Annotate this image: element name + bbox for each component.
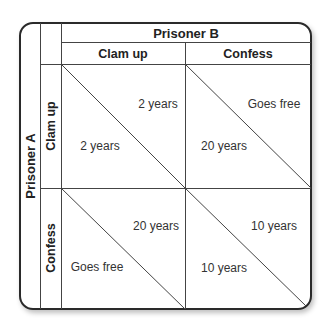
payoff-b-clamup-confess: Goes free [248,97,301,111]
row-player-title: Prisoner A [23,133,38,198]
row-header-confess: Confess [44,223,58,272]
row-header-clam-up: Clam up [44,101,58,150]
payoff-a-clamup-confess: 20 years [201,139,247,153]
payoff-a-clamup-clamup: 2 years [80,139,119,153]
payoff-a-confess-confess: 10 years [201,261,247,275]
column-player-title: Prisoner B [153,26,219,41]
column-header-clam-up: Clam up [98,47,147,61]
payoff-b-confess-confess: 10 years [251,219,297,233]
column-header-confess: Confess [223,47,272,61]
payoff-b-confess-clamup: 20 years [133,219,179,233]
cell-diagonals [0,0,328,328]
payoff-b-clamup-clamup: 2 years [138,97,177,111]
payoff-a-confess-clamup: Goes free [71,260,124,274]
